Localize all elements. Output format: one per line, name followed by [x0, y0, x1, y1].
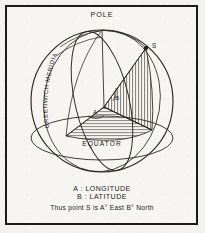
polar-cap-arc-2 — [56, 37, 101, 56]
caption-line-summary: Thus point S is A° East B° North — [50, 204, 154, 212]
equator-label: EQUATOR — [82, 140, 122, 148]
figure-page: POLE EQUATOR GREENWICH MERIDIAN S A B A … — [0, 0, 205, 233]
caption-line-latitude: B : LATITUDE — [77, 193, 127, 200]
point-s-marker — [144, 46, 148, 50]
pole-label: POLE — [91, 10, 114, 19]
greenwich-meridian-label: GREENWICH MERIDIAN — [0, 0, 58, 129]
globe-diagram: POLE EQUATOR GREENWICH MERIDIAN S A B A … — [0, 0, 205, 233]
pole-to-point-arc — [102, 30, 146, 48]
point-s-label: S — [152, 42, 156, 49]
angle-b-label: B — [115, 94, 119, 101]
caption-line-longitude: A : LONGITUDE — [73, 185, 130, 192]
polar-axis-line — [102, 30, 104, 107]
